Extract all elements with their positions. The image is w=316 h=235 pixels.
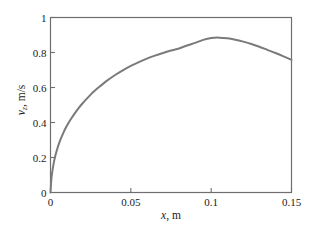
x-tick-label: 0.15 bbox=[282, 197, 301, 208]
x-axis-title: x, m bbox=[161, 209, 181, 221]
y-axis-subscript: z bbox=[20, 107, 29, 110]
y-tick-label: 1 bbox=[41, 12, 47, 23]
y-axis-unit: , m/s bbox=[15, 85, 27, 107]
data-series-line bbox=[51, 38, 292, 193]
y-tick-label: 0.2 bbox=[33, 152, 47, 163]
y-tick-label: 0.4 bbox=[33, 117, 47, 128]
chart-figure: 00.20.40.60.81 00.050.10.15 x, m vz, m/s bbox=[0, 0, 316, 235]
axes-frame bbox=[51, 18, 292, 193]
x-axis-unit: , m bbox=[166, 209, 181, 221]
y-tick-label: 0 bbox=[41, 187, 47, 198]
y-tick-label: 0.6 bbox=[33, 82, 47, 93]
y-tick-label: 0.8 bbox=[33, 47, 47, 58]
axes-box bbox=[51, 18, 292, 193]
y-axis-title: vz, m/s bbox=[15, 85, 29, 116]
x-tick-label: 0.05 bbox=[121, 197, 140, 208]
x-tick-label: 0 bbox=[48, 197, 54, 208]
x-tick-label: 0.1 bbox=[204, 197, 218, 208]
y-axis-symbol: v bbox=[15, 110, 27, 115]
tick-marks bbox=[51, 18, 292, 193]
